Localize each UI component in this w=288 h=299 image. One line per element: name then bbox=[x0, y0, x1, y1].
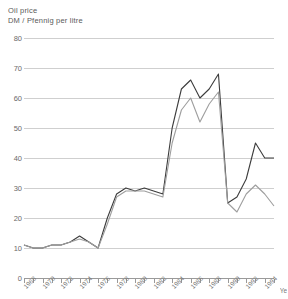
x-axis-label: Ye bbox=[280, 287, 287, 294]
oil-price-chart: Oil price DM / Pfennig per litre 0102030… bbox=[0, 0, 288, 299]
series-layer bbox=[0, 0, 288, 299]
data-series-line bbox=[24, 74, 274, 248]
data-series-line bbox=[24, 92, 274, 248]
